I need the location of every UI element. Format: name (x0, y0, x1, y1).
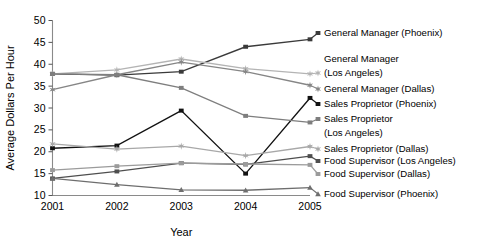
data-point-marker (179, 70, 184, 74)
data-point-marker (315, 145, 321, 152)
line-chart-figure: 10152025303540455020012002200320042005Ye… (0, 0, 481, 246)
y-axis-title: Average Dollars Per Hour (4, 45, 16, 170)
legend-label: (Los Angeles) (324, 127, 383, 138)
legend-item[interactable]: Food Supervisor (Dallas) (310, 165, 430, 179)
axes-group (53, 21, 311, 196)
legend-label: General Manager (Dallas) (324, 83, 434, 94)
legend: General Manager (Phoenix)General Manager… (310, 27, 456, 199)
series-7[interactable] (50, 161, 312, 172)
legend-label: (Los Angeles) (324, 67, 383, 78)
legend-item[interactable]: General Manager (Phoenix) (310, 27, 442, 40)
data-point-marker (179, 161, 184, 165)
x-axis-title: Year (170, 226, 193, 238)
data-point-marker (315, 85, 321, 92)
x-tick-label: 2003 (170, 200, 194, 212)
legend-label: Food Supervisor (Los Angeles) (324, 155, 456, 166)
legend-item[interactable]: Food Supervisor (Phoenix) (310, 188, 438, 199)
legend-label: General Manager (Phoenix) (324, 27, 442, 38)
data-point-marker (179, 109, 184, 113)
chart-canvas: 10152025303540455020012002200320042005Ye… (0, 0, 481, 246)
legend-item[interactable]: Sales Proprietor(Los Angeles) (310, 113, 394, 138)
legend-label: Sales Proprietor (324, 113, 394, 124)
y-tick-label: 15 (34, 167, 46, 179)
data-point-marker (243, 162, 248, 166)
legend-item[interactable]: Food Supervisor (Los Angeles) (310, 155, 456, 166)
x-tick-label: 2001 (41, 200, 65, 212)
series-5[interactable] (49, 140, 313, 159)
data-point-marker (316, 102, 321, 106)
y-tick-label: 30 (34, 102, 46, 114)
data-point-marker (114, 164, 119, 168)
y-axis-ticks: 101520253035404550 (34, 14, 53, 201)
data-point-marker (316, 31, 321, 35)
data-point-marker (179, 86, 184, 90)
axis-lines (53, 21, 311, 196)
y-tick-label: 25 (34, 123, 46, 135)
data-point-marker (243, 114, 248, 118)
legend-item[interactable]: General Manager (Dallas) (310, 83, 434, 94)
x-tick-label: 2005 (298, 200, 322, 212)
legend-label: Food Supervisor (Dallas) (324, 168, 430, 179)
series-8[interactable] (50, 176, 313, 193)
legend-label: Sales Proprietor (Phoenix) (324, 98, 437, 109)
y-tick-label: 40 (34, 58, 46, 70)
series-4[interactable] (50, 72, 312, 125)
data-point-marker (114, 73, 119, 77)
y-tick-label: 20 (34, 145, 46, 157)
data-point-marker (316, 117, 321, 121)
legend-item[interactable]: General Manager(Los Angeles) (310, 53, 399, 78)
series-layer (49, 37, 313, 192)
y-tick-label: 45 (34, 36, 46, 48)
legend-label: Food Supervisor (Phoenix) (324, 188, 438, 199)
legend-item[interactable]: Sales Proprietor (Phoenix) (310, 98, 437, 109)
data-point-marker (50, 168, 55, 172)
y-tick-label: 35 (34, 80, 46, 92)
y-tick-label: 50 (34, 14, 46, 26)
data-point-marker (316, 159, 321, 163)
data-point-marker (114, 169, 119, 173)
data-point-marker (243, 45, 248, 49)
data-point-marker (316, 172, 321, 176)
legend-item[interactable]: Sales Proprietor (Dallas) (310, 143, 429, 154)
legend-label: General Manager (324, 53, 399, 64)
x-tick-label: 2004 (234, 200, 258, 212)
data-point-marker (50, 72, 55, 76)
x-axis-ticks: 20012002200320042005 (41, 200, 322, 212)
data-point-marker (243, 172, 248, 176)
series-line (53, 62, 311, 90)
x-tick-label: 2002 (105, 200, 129, 212)
legend-label: Sales Proprietor (Dallas) (324, 143, 429, 154)
legend-leader-line (310, 188, 318, 194)
